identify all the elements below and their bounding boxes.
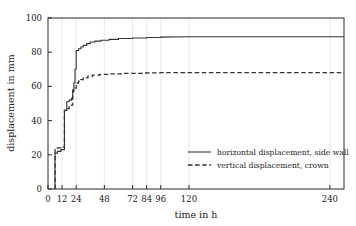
x-tick-label: 120 <box>181 194 197 204</box>
legend-label-vertical-displacement: vertical displacement, crown <box>216 161 329 170</box>
y-tick-label: 60 <box>31 81 42 91</box>
x-tick-label: 96 <box>155 194 166 204</box>
legend-label-horizontal-displacement: horizontal displacement, side wall <box>217 148 349 157</box>
y-tick-label: 40 <box>31 116 42 126</box>
x-tick-label: 240 <box>322 194 338 204</box>
x-tick-label: 12 <box>57 194 68 204</box>
x-tick-label: 84 <box>141 194 152 204</box>
chart-figure: 020406080100 0122448728496120240 displac… <box>0 0 356 226</box>
x-tick-label: 72 <box>127 194 138 204</box>
x-tick-label: 0 <box>45 194 50 204</box>
y-axis-title: displacement in mm <box>5 54 16 152</box>
x-axis-title: time in h <box>175 209 218 220</box>
y-tick-label: 100 <box>26 13 42 23</box>
x-tick-label: 48 <box>99 194 110 204</box>
y-tick-label: 20 <box>31 150 42 160</box>
chart-background <box>0 0 356 226</box>
x-tick-label: 24 <box>71 194 82 204</box>
y-tick-label: 80 <box>31 47 42 57</box>
displacement-vs-time-chart: 020406080100 0122448728496120240 displac… <box>0 0 356 226</box>
y-tick-label: 0 <box>37 184 42 194</box>
